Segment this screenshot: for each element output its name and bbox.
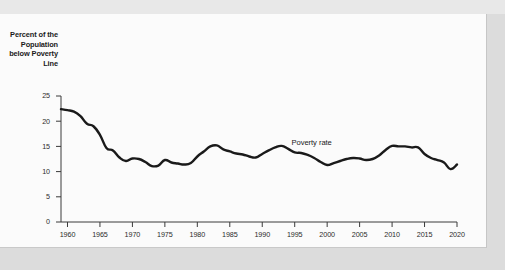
chart-card: Percent of the Population below Poverty …: [0, 14, 487, 248]
x-axis-tick-label: 1960: [52, 230, 82, 239]
page-background: Percent of the Population below Poverty …: [0, 0, 505, 270]
y-axis-title-line-4: Line: [2, 59, 58, 69]
y-axis-tick-label: 10: [28, 167, 50, 176]
x-axis-tick-label: 1970: [117, 230, 147, 239]
x-axis-tick-label: 1975: [150, 230, 180, 239]
x-axis-tick-label: 1965: [85, 230, 115, 239]
x-axis-ticks: [67, 222, 457, 227]
x-axis-tick-label: 1980: [182, 230, 212, 239]
y-axis-title: Percent of the Population below Poverty …: [2, 30, 58, 68]
x-axis-tick-label: 2010: [377, 230, 407, 239]
y-axis-title-line-2: Population: [2, 40, 58, 50]
x-axis-tick-label: 2000: [312, 230, 342, 239]
y-axis-tick-label: 0: [28, 217, 50, 226]
y-axis-title-line-1: Percent of the: [2, 30, 58, 40]
y-axis-tick-label: 25: [28, 91, 50, 100]
series-annotation-label: Poverty rate: [291, 138, 331, 147]
y-axis-tick-label: 15: [28, 142, 50, 151]
y-axis-tick-label: 5: [28, 192, 50, 201]
plot-svg: [0, 14, 487, 248]
x-axis-tick-label: 2015: [410, 230, 440, 239]
x-axis-tick-label: 1985: [215, 230, 245, 239]
y-axis-ticks: [56, 96, 61, 222]
x-axis-tick-label: 2020: [442, 230, 472, 239]
y-axis-tick-label: 20: [28, 117, 50, 126]
x-axis-tick-label: 1995: [280, 230, 310, 239]
x-axis-tick-label: 2005: [345, 230, 375, 239]
y-axis-title-line-3: below Poverty: [2, 49, 58, 59]
poverty-rate-chart: Percent of the Population below Poverty …: [0, 14, 487, 248]
poverty-rate-line: [61, 109, 457, 169]
x-axis-tick-label: 1990: [247, 230, 277, 239]
